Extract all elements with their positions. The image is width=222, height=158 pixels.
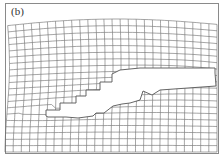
mesh-diagram <box>0 0 222 158</box>
panel-label: (b) <box>11 6 24 17</box>
crack-opening <box>46 68 216 118</box>
